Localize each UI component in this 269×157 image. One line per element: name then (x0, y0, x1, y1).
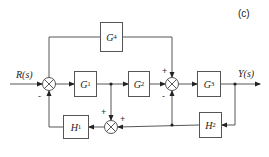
block-h1-name: H (71, 122, 78, 133)
sum3-sign-top: + (101, 108, 106, 117)
block-g1-sub: 1 (87, 80, 91, 88)
block-g4: G4 (100, 22, 123, 52)
block-g3-name: G (204, 79, 211, 90)
block-h2-name: H (205, 120, 212, 131)
pickoff-node-h2 (170, 123, 173, 126)
panel-label: (c) (238, 9, 250, 19)
block-h1: H1 (63, 115, 89, 139)
sum3-sign-right: + (120, 115, 125, 124)
summing-junction-3 (105, 121, 118, 134)
block-g1-name: G (80, 79, 87, 90)
input-label: R(s) (16, 70, 33, 80)
block-g3: G3 (197, 71, 221, 97)
summing-junction-2 (166, 78, 179, 91)
block-g2: G2 (128, 71, 150, 97)
block-h2-sub: 2 (212, 121, 216, 129)
block-h1-sub: 1 (78, 123, 82, 131)
sum2-sign-top: + (162, 67, 167, 76)
block-g2-sub: 2 (141, 80, 145, 88)
block-g4-name: G (106, 32, 113, 43)
block-g4-sub: 4 (113, 33, 117, 41)
pickoff-node-output (233, 82, 236, 85)
block-h2: H2 (199, 112, 222, 138)
block-g1: G1 (74, 71, 97, 97)
block-g2-name: G (134, 79, 141, 90)
block-g3-sub: 3 (211, 80, 215, 88)
sum2-sign-bottom: - (162, 92, 165, 101)
sum1-sign-bottom: - (38, 92, 41, 101)
summing-junction-1 (43, 78, 56, 91)
pickoff-node-g1 (109, 82, 112, 85)
output-label: Y(s) (238, 69, 254, 79)
